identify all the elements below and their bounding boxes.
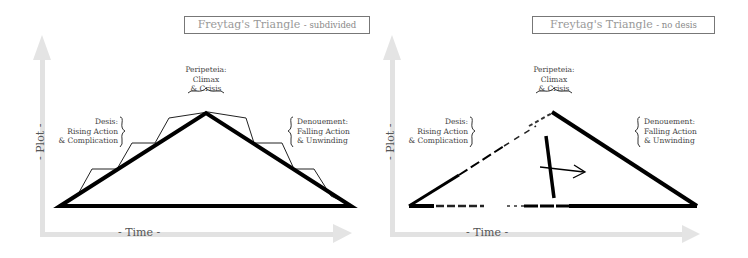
arrow-right-icon (540, 165, 585, 178)
x-axis-line (40, 232, 338, 237)
x-axis-line (390, 232, 688, 237)
title-box-no-desis: Freytag's Triangle - no desis (532, 16, 715, 34)
label-desis: Desis: Rising Action & Complication (52, 117, 118, 146)
brace-desis-icon (120, 117, 125, 147)
y-axis-label: - Plot - (34, 124, 47, 160)
x-axis-arrow-icon (333, 224, 352, 243)
strike-line (546, 136, 554, 198)
title-box-subdivided: Freytag's Triangle - subdivided (184, 16, 370, 34)
x-axis-arrow-icon (682, 225, 700, 243)
y-axis-arrow-icon (33, 35, 51, 60)
label-desis: Desis: Rising Action & Complication (402, 117, 468, 146)
title-suffix: - subdivided (304, 20, 356, 30)
title-text: Freytag's Triangle (198, 18, 301, 31)
x-axis-label: - Time - (118, 226, 160, 239)
panel-subdivided: Freytag's Triangle - subdivided Peripete… (0, 0, 374, 258)
brace-denouement-icon (288, 117, 293, 147)
y-axis-label: - Plot - (384, 124, 397, 160)
label-peripeteia: Peripeteia: Climax & Crisis (182, 65, 230, 94)
title-suffix: - no desis (656, 20, 697, 30)
y-axis-arrow-icon (383, 35, 401, 60)
label-denouement: Denouement: Falling Action & Unwinding (297, 117, 350, 146)
title-text: Freytag's Triangle (550, 18, 653, 31)
panel-no-desis: Freytag's Triangle - no desis Peripeteia… (374, 0, 748, 258)
brace-desis-icon (470, 117, 475, 147)
x-axis-label: - Time - (466, 226, 508, 239)
label-peripeteia: Peripeteia: Climax & Crisis (530, 65, 578, 94)
brace-denouement-icon (635, 117, 640, 147)
label-denouement: Denouement: Falling Action & Unwinding (644, 117, 697, 146)
